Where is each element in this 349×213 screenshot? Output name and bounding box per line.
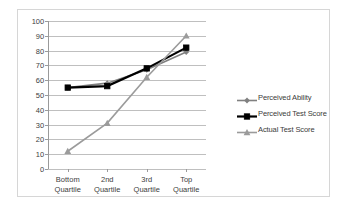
data-point-diamond-marker (244, 97, 250, 103)
y-axis-tick-label: 50 (36, 91, 44, 100)
y-axis-tick-label: 80 (36, 46, 44, 55)
series-line (68, 36, 187, 151)
series-actual-test-score (64, 32, 189, 154)
legend-item[interactable]: Actual Test Score (236, 121, 328, 137)
x-axis-tick-label: BottomQuartile (55, 175, 81, 194)
legend-key-diamond-icon (236, 92, 258, 103)
chart-frame: 1009080706050403020100 BottomQuartile2nd… (17, 9, 330, 197)
chart-legend: Perceived AbilityPerceived Test ScoreAct… (236, 89, 328, 137)
x-axis-tick-label: 3rdQuartile (134, 175, 160, 194)
y-axis-tick-label: 40 (36, 105, 44, 114)
data-point-triangle-marker (183, 32, 190, 38)
legend-item[interactable]: Perceived Test Score (236, 105, 328, 121)
x-axis-tick-label: 2ndQuartile (94, 175, 120, 194)
y-axis-tick (45, 169, 48, 170)
legend-label: Actual Test Score (258, 125, 315, 134)
data-point-square-marker (65, 85, 70, 90)
legend-label: Perceived Ability (258, 93, 311, 102)
legend-key-square-icon (236, 108, 258, 119)
x-axis-tick (186, 169, 187, 172)
data-point-square-marker (144, 66, 149, 71)
y-axis-tick-label: 70 (36, 61, 44, 70)
legend-label: Perceived Test Score (258, 109, 327, 118)
data-point-square-marker (105, 83, 110, 88)
y-axis-tick-label: 20 (36, 135, 44, 144)
y-axis-tick-label: 30 (36, 120, 44, 129)
x-axis-tick (68, 169, 69, 172)
plot-area: 1009080706050403020100 BottomQuartile2nd… (48, 21, 206, 169)
x-axis-tick-label: TopQuartile (173, 175, 199, 194)
x-axis-tick (107, 169, 108, 172)
data-point-square-marker (184, 45, 189, 50)
legend-item[interactable]: Perceived Ability (236, 89, 328, 105)
y-axis-tick-label: 100 (32, 17, 44, 26)
data-point-square-marker (244, 113, 249, 118)
y-axis-tick-label: 10 (36, 150, 44, 159)
legend-key-triangle-icon (236, 124, 258, 135)
series-layer (48, 21, 206, 169)
y-axis-tick-label: 60 (36, 76, 44, 85)
x-axis-tick (147, 169, 148, 172)
y-axis-tick-label: 0 (40, 165, 44, 174)
y-axis-tick-label: 90 (36, 31, 44, 40)
gridline (48, 169, 206, 170)
